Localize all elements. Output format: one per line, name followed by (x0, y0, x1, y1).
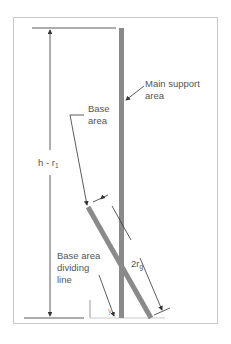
main-support-label: Main support area (145, 78, 200, 102)
main-support-leader (126, 86, 144, 100)
radius-label: 2rg (131, 258, 143, 273)
angle-label: γ (108, 305, 112, 317)
base-area-leader (70, 115, 87, 205)
diagram-graphics (0, 0, 231, 344)
base-area-label: Base area (88, 103, 110, 127)
height-label: h - r1 (38, 157, 59, 172)
dividing-line-label: Base area dividing line (57, 250, 100, 286)
main-support-bar (119, 28, 124, 318)
